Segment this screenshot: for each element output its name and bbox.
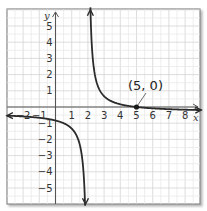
x-tick-label: 3 [101,110,107,121]
y-tick-label: −5 [38,183,53,194]
y-tick-label: 3 [46,53,52,64]
point-marker [134,104,139,109]
y-tick-label: −3 [38,150,53,161]
x-tick-label: 6 [150,110,156,121]
point-label: (5, 0) [128,78,163,93]
x-axis-label: x [193,112,199,123]
x-tick-label: 1 [69,110,75,121]
x-tick-label: 8 [182,110,188,121]
y-tick-label: 4 [46,37,52,48]
x-tick-label: 4 [117,110,123,121]
x-tick-label: 5 [133,110,139,121]
y-tick-label: 2 [46,69,52,80]
y-tick-label: −2 [38,134,53,145]
graph: −2−11234567854321−1−2−3−4−5 (5, 0) y x [0,0,207,211]
y-tick-label: 1 [46,85,52,96]
x-tick-label: 7 [166,110,172,121]
y-axis-label: y [43,10,50,21]
y-tick-label: 5 [46,21,52,32]
y-tick-label: −4 [38,166,53,177]
x-tick-label: 2 [85,110,91,121]
